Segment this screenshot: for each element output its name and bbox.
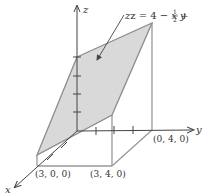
point-label-340: (3, 4, 0) — [90, 169, 126, 179]
equation-y: y — [179, 10, 186, 21]
x-axis-label: x — [5, 184, 11, 195]
point-label-040: (0, 4, 0) — [153, 134, 189, 144]
point-label-300: (3, 0, 0) — [35, 169, 71, 179]
fraction-denominator: 2 — [173, 16, 177, 23]
plane-surface — [37, 23, 152, 155]
y-axis — [77, 130, 193, 131]
diagram-canvas: zz = 4 − x + 1 2 y z y x (3, 0, 0) (3, 4… — [0, 0, 205, 195]
z-axis-label: z — [82, 4, 89, 15]
surface-equation: zz = 4 − x + — [124, 10, 189, 21]
edge-340-040 — [112, 130, 152, 166]
fraction-numerator: 1 — [173, 8, 177, 15]
equation-prefix: z = 4 − — [130, 10, 171, 21]
y-axis-label: y — [195, 124, 202, 135]
